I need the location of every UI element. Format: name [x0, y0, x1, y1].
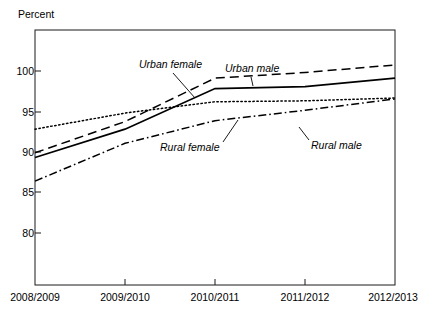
line-chart: Percent 100 95 90 85 80 2008/2009 2009/2… [0, 0, 428, 319]
plot-area [0, 0, 428, 319]
series-lines [35, 65, 395, 181]
series-line-urban-female [35, 65, 395, 153]
series-line-urban-male [35, 78, 395, 157]
plot-frame [35, 30, 395, 285]
annotation-leader-lines [173, 73, 309, 142]
x-axis-ticks [125, 279, 305, 285]
series-line-rural-female [35, 98, 395, 129]
